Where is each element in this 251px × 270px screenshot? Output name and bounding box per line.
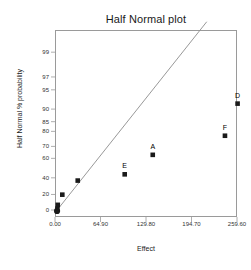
data-point-marker[interactable] (235, 101, 240, 106)
plot-canvas (56, 31, 238, 218)
x-axis-title: Effect (55, 245, 237, 252)
data-point-label: D (235, 92, 240, 99)
data-point-marker[interactable] (122, 172, 127, 177)
chart-title: Half Normal plot (55, 13, 237, 25)
data-point-label: F (223, 124, 227, 131)
data-point-marker[interactable] (150, 153, 155, 158)
y-tick-label: 70 (42, 143, 49, 149)
x-tick-label: 64.90 (93, 221, 108, 227)
y-tick-label: 40 (42, 175, 49, 181)
x-axis-tick-labels: 0.0064.90129.80194.70259.60 (55, 221, 237, 233)
y-axis-tick-labels: 020406070808590959799 (31, 30, 49, 217)
y-tick-label: 97 (42, 74, 49, 80)
y-tick-label: 90 (42, 106, 49, 112)
y-axis-title: Half Normal % probability (16, 49, 23, 169)
y-tick-label: 80 (42, 128, 49, 134)
x-tick-label: 129.80 (137, 221, 155, 227)
data-point-marker[interactable] (55, 203, 60, 208)
x-tick-label: 259.60 (228, 221, 246, 227)
y-tick-label: 60 (42, 155, 49, 161)
plot-area: EAFD (55, 30, 237, 217)
x-tick-label: 0.00 (49, 221, 61, 227)
y-tick-label: 95 (42, 87, 49, 93)
half-normal-plot-figure: Half Normal plot Half Normal % probabili… (0, 0, 251, 270)
x-tick-label: 194.70 (182, 221, 200, 227)
data-point-marker[interactable] (75, 178, 80, 183)
data-point-label: A (150, 143, 155, 150)
data-point-label: E (122, 162, 127, 169)
data-point-marker[interactable] (60, 192, 65, 197)
y-tick-label: 99 (42, 49, 49, 55)
y-tick-label: 85 (42, 119, 49, 125)
data-point-marker[interactable] (223, 133, 228, 138)
y-tick-label: 20 (42, 191, 49, 197)
